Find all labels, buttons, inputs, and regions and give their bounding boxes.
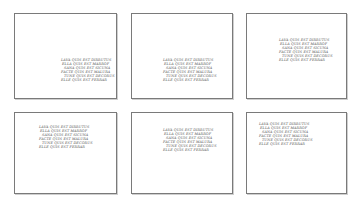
text-line: Elle quis est ferrar — [279, 58, 333, 62]
panel-3-text: Lava quis est dirrutus Ella quis est mar… — [279, 38, 333, 63]
panel-5-text: Lava quis est dirrutus Ella quis est mar… — [163, 128, 217, 153]
panel-5: Lava quis est dirrutus Ella quis est mar… — [131, 112, 233, 194]
text-line: Elle quis est ferrar — [61, 78, 115, 82]
panel-3: Lava quis est dirrutus Ella quis est mar… — [246, 13, 347, 99]
panel-2: Lava quis est dirrutus Ella quis est mar… — [131, 13, 233, 99]
panel-2-text: Lava quis est dirrutus Ella quis est mar… — [163, 58, 217, 83]
panel-6: Lava quis est dirrutus Ella quis est mar… — [246, 112, 347, 194]
text-line: Elle quis est ferrar — [259, 142, 313, 146]
text-line: Elle quis est ferrar — [163, 78, 217, 82]
panel-4: Lava quis est dirrutus Ella quis est mar… — [14, 112, 117, 194]
panel-6-text: Lava quis est dirrutus Ella quis est mar… — [259, 122, 313, 147]
text-line: Elle quis est ferrar — [39, 145, 93, 149]
panel-1: Lava quis est dirrutus Ella quis est mar… — [14, 13, 117, 99]
panel-1-text: Lava quis est dirrutus Ella quis est mar… — [61, 58, 115, 83]
panel-4-text: Lava quis est dirrutus Ella quis est mar… — [39, 125, 93, 150]
text-line: Elle quis est ferrar — [163, 148, 217, 152]
